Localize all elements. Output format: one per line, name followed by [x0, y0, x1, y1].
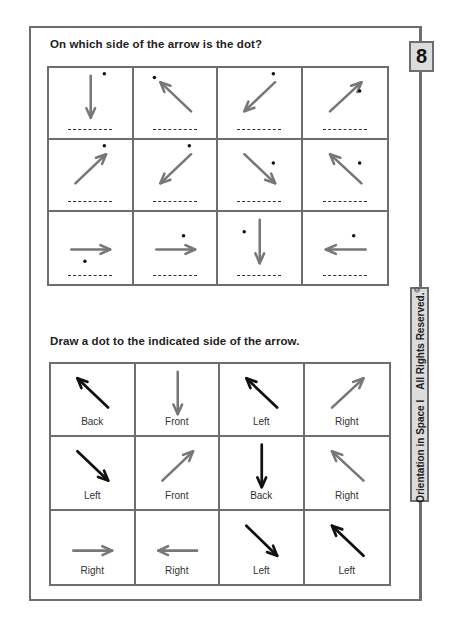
copyright-icon: © — [413, 287, 420, 292]
dot-icon — [242, 230, 245, 234]
side-label: Right — [51, 565, 134, 576]
drawing-cell[interactable]: Right — [136, 511, 221, 584]
dot-icon — [181, 234, 184, 238]
question-cell — [218, 212, 303, 284]
drawing-cell[interactable]: Front — [136, 364, 221, 437]
question-cell — [218, 140, 303, 212]
exercise2-title: Draw a dot to the indicated side of the … — [50, 335, 300, 347]
drawing-cell[interactable]: Right — [305, 437, 390, 510]
drawing-cell[interactable]: Front — [136, 437, 221, 510]
question-cell — [303, 140, 388, 212]
answer-blank[interactable] — [68, 201, 112, 202]
question-cell — [49, 212, 134, 284]
drawing-cell[interactable]: Left — [220, 511, 305, 584]
copyright-label-box: Orientation in Space IAll Rights Reserve… — [410, 287, 429, 502]
arrow-up-left-icon — [134, 68, 217, 138]
drawing-cell[interactable]: Left — [51, 437, 136, 510]
arrow-up-right-icon — [303, 68, 388, 138]
side-label: Front — [136, 416, 219, 427]
drawing-cell[interactable]: Back — [51, 364, 136, 437]
arrow-down-icon — [218, 212, 301, 284]
question-cell — [218, 68, 303, 140]
side-label: Back — [51, 416, 134, 427]
tab-connector-line — [420, 72, 422, 287]
question-cell — [49, 68, 134, 140]
answer-blank[interactable] — [237, 275, 281, 276]
question-cell — [134, 68, 219, 140]
arrow-up-left-icon — [303, 140, 388, 210]
copyright-label: Orientation in Space IAll Rights Reserve… — [413, 287, 425, 502]
side-label: Left — [305, 565, 390, 576]
side-label: Left — [51, 490, 134, 501]
drawing-cell[interactable]: Left — [305, 511, 390, 584]
question-cell — [303, 212, 388, 284]
question-cell — [134, 140, 219, 212]
dot-icon — [103, 72, 106, 75]
side-label: Front — [136, 490, 219, 501]
answer-blank[interactable] — [237, 201, 281, 202]
drawing-cell[interactable]: Right — [305, 364, 390, 437]
series-name: Orientation in Space I — [415, 399, 426, 502]
arrow-down-left-icon — [134, 140, 217, 210]
drawing-cell[interactable]: Back — [220, 437, 305, 510]
answer-blank[interactable] — [237, 129, 281, 130]
dot-icon — [152, 76, 155, 79]
dot-icon — [272, 161, 275, 164]
side-label: Right — [305, 490, 390, 501]
tab-connector-line — [420, 502, 422, 601]
exercise1-title: On which side of the arrow is the dot? — [50, 38, 262, 50]
dot-icon — [187, 144, 190, 147]
arrow-down-left-icon — [218, 68, 301, 138]
side-label: Right — [136, 565, 219, 576]
arrow-down-right-icon — [218, 140, 301, 210]
rights-text: All Rights Reserved. — [415, 292, 426, 389]
answer-blank[interactable] — [323, 129, 367, 130]
exercise2-grid: BackFrontLeftRightLeftFrontBackRightRigh… — [49, 362, 391, 586]
side-label: Left — [220, 416, 303, 427]
answer-blank[interactable] — [68, 275, 112, 276]
answer-blank[interactable] — [153, 275, 197, 276]
arrow-right-icon — [134, 212, 217, 284]
dot-icon — [83, 260, 86, 264]
arrow-down-icon — [49, 68, 132, 138]
dot-icon — [357, 89, 361, 92]
drawing-cell[interactable]: Left — [220, 364, 305, 437]
arrow-up-right-icon — [49, 140, 132, 210]
dot-icon — [351, 234, 355, 238]
dot-icon — [103, 144, 106, 147]
tab-connector-line — [420, 26, 422, 41]
answer-blank[interactable] — [153, 201, 197, 202]
dot-icon — [272, 72, 275, 75]
side-label: Left — [220, 565, 303, 576]
question-cell — [49, 140, 134, 212]
answer-blank[interactable] — [153, 129, 197, 130]
answer-blank[interactable] — [323, 201, 367, 202]
side-label: Right — [305, 416, 390, 427]
question-cell — [134, 212, 219, 284]
side-label: Back — [220, 490, 303, 501]
page-number-badge: 8 — [409, 41, 434, 72]
answer-blank[interactable] — [323, 275, 367, 276]
exercise1-grid — [47, 66, 389, 286]
dot-icon — [357, 161, 361, 164]
question-cell — [303, 68, 388, 140]
arrow-right-icon — [49, 212, 132, 284]
arrow-left-icon — [303, 212, 388, 284]
drawing-cell[interactable]: Right — [51, 511, 136, 584]
answer-blank[interactable] — [68, 129, 112, 130]
